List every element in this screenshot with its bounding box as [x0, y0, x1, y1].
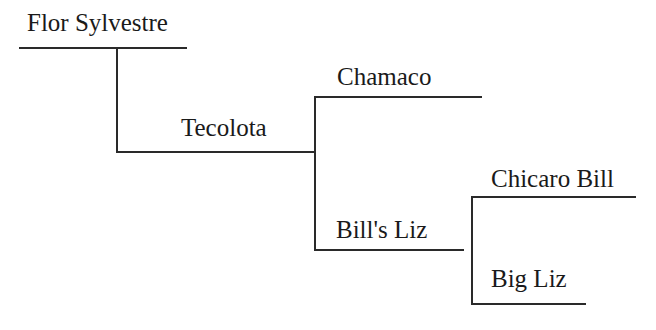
- dam-dam-sire-line: [471, 196, 636, 198]
- horse-name-big-liz: Big Liz: [491, 266, 567, 291]
- dam-dam-connector: [471, 197, 473, 304]
- horse-name-bills-liz: Bill's Liz: [336, 217, 427, 242]
- root-connector: [116, 47, 118, 153]
- pedigree-chart: Flor Sylvestre Tecolota Chamaco Bill's L…: [0, 0, 656, 330]
- horse-name-tecolota: Tecolota: [181, 115, 267, 140]
- dam-line: [116, 151, 316, 153]
- dam-sire-line: [314, 96, 482, 98]
- dam-dam-line: [314, 249, 464, 251]
- dam-dam-dam-line: [471, 303, 586, 305]
- root-line: [19, 47, 187, 49]
- dam-connector: [314, 96, 316, 251]
- horse-name-flor-sylvestre: Flor Sylvestre: [27, 10, 168, 35]
- horse-name-chicaro-bill: Chicaro Bill: [491, 166, 614, 191]
- horse-name-chamaco: Chamaco: [337, 64, 431, 89]
